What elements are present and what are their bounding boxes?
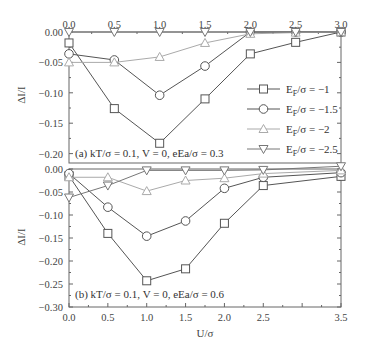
square-marker (110, 105, 118, 113)
x-tick-label: 1.0 (140, 312, 153, 323)
square-marker (104, 229, 112, 237)
y-tick-label: −0.15 (39, 233, 63, 244)
square-icon (260, 85, 268, 93)
y-tick-label: −0.10 (39, 210, 63, 221)
x-tick-label: 2.5 (257, 312, 270, 323)
panel-b-annotation: (b) kT/σ = 0.1, V = 0, eEa/σ = 0.6 (75, 288, 225, 301)
plot-canvas: 0.00.51.01.52.02.53.00.00−0.05−0.10−0.15… (0, 0, 365, 355)
x-tick-label: 1.5 (179, 312, 192, 323)
y-tick-label: 0.00 (45, 27, 63, 38)
series-line (69, 176, 341, 281)
x-tick-label: 2.0 (218, 312, 231, 323)
y-tick-label: 0.00 (45, 164, 63, 175)
x-tick-label: 3.5 (334, 312, 347, 323)
circle-icon (259, 105, 268, 114)
panel-a-annotation: (a) kT/σ = 0.1, V = 0, eEa/σ = 0.3 (75, 147, 224, 160)
circle-marker (104, 203, 113, 212)
x-axis-title: U/σ (197, 327, 214, 339)
circle-marker (142, 232, 151, 241)
legend-label: EF/σ = −1 (286, 83, 330, 98)
square-marker (292, 38, 300, 46)
y-tick-label: −0.30 (39, 302, 63, 313)
circle-marker (181, 217, 190, 226)
x-tick-label: 0.5 (101, 312, 114, 323)
y-tick-label: −0.15 (39, 118, 63, 129)
y-tick-label: −0.20 (39, 256, 63, 267)
y-tick-label: −0.05 (39, 57, 63, 68)
legend-label: EF/σ = −2.5 (286, 143, 338, 158)
y-axis-title-top: ΔI/I (15, 86, 27, 104)
y-tick-label: −0.10 (39, 88, 63, 99)
legend-label: EF/σ = −1.5 (286, 103, 338, 118)
legend: EF/σ = −1EF/σ = −1.5EF/σ = −2EF/σ = −2.5 (247, 83, 338, 158)
y-tick-label: −0.05 (39, 187, 63, 198)
x-tick-label: 0.0 (62, 312, 75, 323)
square-marker (182, 265, 190, 273)
triangle-down-marker (65, 194, 74, 202)
square-marker (220, 219, 228, 227)
y-tick-label: −0.20 (39, 149, 63, 160)
circle-marker (201, 62, 210, 71)
legend-label: EF/σ = −2 (286, 123, 330, 138)
circle-marker (155, 91, 164, 100)
square-marker (259, 182, 267, 190)
y-tick-label: −0.25 (39, 279, 63, 290)
square-marker (201, 95, 209, 103)
figure: 0.00.51.01.52.02.53.00.00−0.05−0.10−0.15… (0, 0, 365, 355)
plot-frame (69, 169, 341, 307)
square-marker (143, 277, 151, 285)
y-axis-title-bottom: ΔI/I (15, 228, 27, 246)
circle-marker (220, 184, 229, 193)
square-marker (246, 50, 254, 58)
square-marker (65, 39, 73, 47)
